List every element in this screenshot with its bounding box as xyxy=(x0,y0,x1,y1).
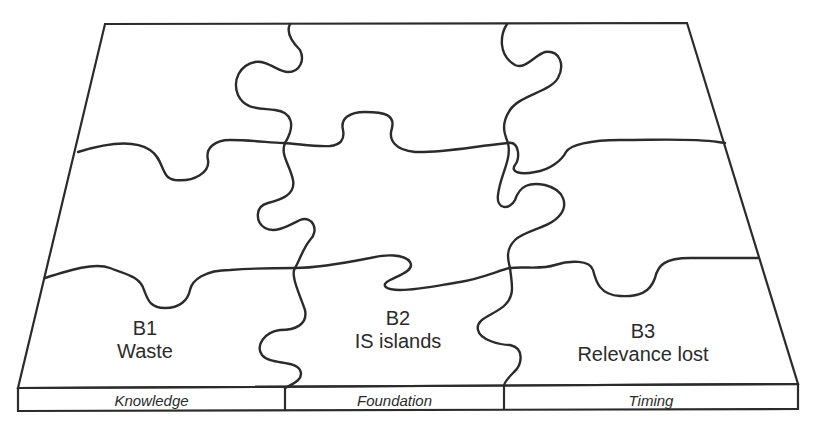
piece-b2-code: B2 xyxy=(355,307,442,330)
piece-b2-name: IS islands xyxy=(355,330,442,353)
strip-label-foundation: Foundation xyxy=(285,390,504,411)
piece-b1: B1 Waste xyxy=(117,317,173,363)
seam-vertical-right xyxy=(478,24,564,386)
strip-label-timing: Timing xyxy=(504,390,798,411)
piece-b1-name: Waste xyxy=(117,340,173,363)
piece-b3: B3 Relevance lost xyxy=(577,320,708,366)
piece-b1-code: B1 xyxy=(117,317,173,340)
seam-horizontal-upper xyxy=(78,112,725,180)
strip-label-knowledge: Knowledge xyxy=(18,390,285,411)
puzzle-diagram: B1 Waste B2 IS islands B3 Relevance lost… xyxy=(0,0,813,434)
piece-b3-name: Relevance lost xyxy=(577,343,708,366)
puzzle-graphic xyxy=(0,0,813,434)
piece-b3-code: B3 xyxy=(577,320,708,343)
seam-vertical-left xyxy=(236,24,315,388)
piece-b2: B2 IS islands xyxy=(355,307,442,353)
seam-horizontal-lower xyxy=(45,255,758,308)
